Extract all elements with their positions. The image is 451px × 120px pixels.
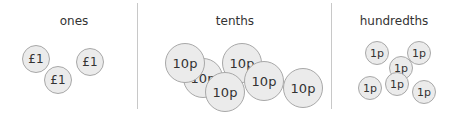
coin-hundredths: 1p — [385, 72, 409, 96]
coin-hundredths: 1p — [412, 80, 436, 104]
coin-label: 10p — [252, 74, 277, 89]
coin-tenths: 10p — [165, 43, 205, 83]
coin-label: £1 — [82, 55, 97, 69]
coin-label: 1p — [390, 78, 404, 91]
coin-hundredths: 1p — [365, 41, 389, 65]
coin-label: 10p — [291, 81, 316, 96]
coin-label: 10p — [213, 85, 238, 100]
coin-ones: £1 — [76, 48, 104, 76]
coin-tenths: 10p — [205, 72, 245, 112]
column-title-ones: ones — [60, 14, 89, 28]
coin-label: £1 — [50, 73, 65, 87]
coin-ones: £1 — [44, 66, 72, 94]
coin-label: £1 — [28, 52, 43, 66]
column-divider — [137, 3, 138, 109]
coin-tenths: 10p — [244, 61, 284, 101]
coin-ones: £1 — [22, 45, 50, 73]
coin-label: 1p — [412, 47, 426, 60]
coin-label: 1p — [417, 86, 431, 99]
coin-tenths: 10p — [283, 68, 323, 108]
column-title-hundredths: hundredths — [360, 14, 429, 28]
coin-label: 1p — [370, 47, 384, 60]
column-title-tenths: tenths — [216, 14, 254, 28]
coin-hundredths: 1p — [358, 76, 382, 100]
coin-label: 10p — [173, 56, 198, 71]
column-divider — [331, 3, 332, 109]
coin-label: 1p — [363, 82, 377, 95]
